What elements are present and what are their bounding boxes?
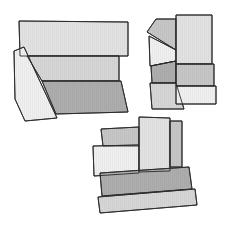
group-2-right-middle-band-hatch [176, 64, 214, 86]
piece-group-1 [14, 21, 128, 121]
group-1-middle-band-hatch [27, 56, 119, 81]
group-3-tall-center-rectangle-hatch [139, 117, 170, 172]
puzzle-diagram [0, 0, 228, 229]
group-1-top-rectangle-hatch [19, 21, 128, 56]
group-2-right-tall-rectangle-hatch [176, 15, 212, 64]
piece-group-3 [93, 117, 197, 213]
group-3-right-narrow-rectangle-hatch [170, 121, 182, 167]
piece-group-2 [147, 15, 216, 109]
group-1-bottom-trapezoid-hatch [42, 81, 128, 114]
group-3-top-left-rectangle-hatch [101, 127, 139, 146]
